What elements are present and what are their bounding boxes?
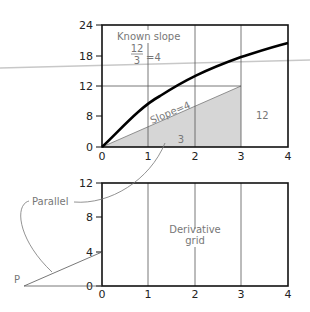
bottom-y-tick-12: 12 [79, 177, 93, 190]
derivative-diagram: 24 18 12 8 0 0 1 2 3 4 Known slope 12 3 … [0, 0, 310, 312]
bottom-y-tick-8: 8 [86, 211, 93, 224]
parallel-label: Parallel [32, 196, 68, 207]
bottom-x-tick-1: 1 [145, 288, 152, 301]
bottom-x-tick-3: 3 [238, 288, 245, 301]
fraction-denominator: 3 [134, 55, 140, 66]
derivative-grid-label-2: grid [185, 235, 205, 246]
pole-label: P [14, 274, 20, 285]
x-tick-2: 2 [192, 150, 199, 163]
bottom-x-tick-4: 4 [285, 288, 292, 301]
bottom-plot: 12 8 4 0 0 1 2 3 4 Derivative grid [79, 177, 292, 301]
x-tick-1: 1 [145, 150, 152, 163]
x-tick-0: 0 [99, 150, 106, 163]
triangle-height-label: 12 [256, 110, 269, 121]
x-tick-4: 4 [285, 150, 292, 163]
bottom-x-tick-0: 0 [99, 288, 106, 301]
derivative-grid-label-1: Derivative [169, 224, 221, 235]
parallel-leader-bottom [21, 201, 52, 272]
y-tick-12: 12 [79, 80, 93, 93]
y-tick-8: 8 [86, 110, 93, 123]
top-plot: 24 18 12 8 0 0 1 2 3 4 Known slope 12 3 … [79, 19, 292, 163]
y-tick-18: 18 [79, 50, 93, 63]
bottom-y-tick-0: 0 [86, 280, 93, 293]
fraction-numerator: 12 [131, 43, 144, 54]
x-tick-3: 3 [238, 150, 245, 163]
fraction-result: =4 [146, 52, 161, 63]
y-tick-0: 0 [86, 141, 93, 154]
known-slope-label: Known slope [117, 31, 180, 42]
triangle-base-label: 3 [178, 134, 184, 145]
bottom-x-tick-2: 2 [192, 288, 199, 301]
y-tick-24: 24 [79, 19, 93, 32]
